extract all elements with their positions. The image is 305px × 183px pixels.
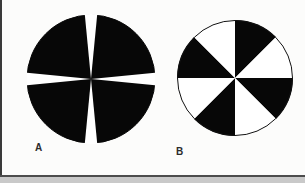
page-bottom-band: [0, 177, 305, 183]
disk-b-graphic: [176, 19, 295, 138]
figure-a-label: A: [35, 143, 43, 153]
figure-a: [27, 14, 155, 144]
figure-b: [176, 19, 295, 138]
page-left-border: [0, 0, 2, 179]
disk-a-graphic: [27, 14, 155, 144]
figure-page: A B: [0, 0, 305, 183]
figure-b-label: B: [176, 147, 184, 157]
